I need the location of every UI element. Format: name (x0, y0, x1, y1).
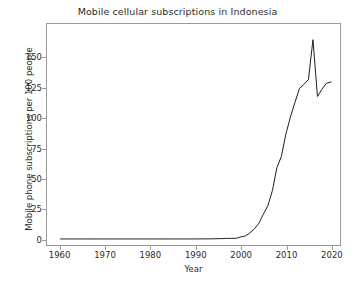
x-tick-mark (332, 246, 333, 250)
y-tick-label: 0 (2, 235, 42, 245)
x-axis-label: Year (46, 264, 341, 274)
x-tick-label: 2010 (267, 250, 307, 260)
x-tick-mark (105, 246, 106, 250)
chart-figure: Mobile cellular subscriptions in Indones… (0, 0, 355, 287)
x-tick-mark (287, 246, 288, 250)
series-polyline (61, 40, 331, 239)
x-tick-mark (241, 246, 242, 250)
x-tick-mark (60, 246, 61, 250)
x-tick-mark (150, 246, 151, 250)
x-tick-label: 1970 (85, 250, 125, 260)
line-series (47, 24, 340, 245)
x-tick-label: 2000 (221, 250, 261, 260)
x-tick-mark (196, 246, 197, 250)
y-tick-label: 125 (2, 83, 42, 93)
plot-area (46, 23, 341, 246)
y-tick-label: 100 (2, 113, 42, 123)
y-tick-label: 75 (2, 144, 42, 154)
x-tick-label: 1980 (130, 250, 170, 260)
y-tick-label: 150 (2, 52, 42, 62)
chart-title: Mobile cellular subscriptions in Indones… (0, 6, 355, 17)
y-tick-label: 25 (2, 204, 42, 214)
y-tick-label: 50 (2, 174, 42, 184)
x-tick-label: 2020 (312, 250, 352, 260)
x-tick-label: 1960 (40, 250, 80, 260)
x-tick-label: 1990 (176, 250, 216, 260)
